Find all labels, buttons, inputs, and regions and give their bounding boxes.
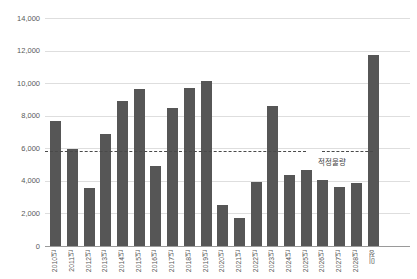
x-tick-label: 2019년 [202,250,210,272]
x-tick-label: 2023년 [268,250,276,272]
y-tick-label: 12,000 [0,46,40,55]
x-tick-label: 2017년 [168,250,176,272]
x-tick-label: 2012년 [85,250,93,272]
x-tick-label: 2025년 [302,250,310,272]
x-tick-label: 2024년 [285,250,293,272]
bar-2015년 [134,89,145,246]
y-tick-label: 6,000 [0,144,40,153]
bar-chart: 적정물량 14,00012,00010,0008,0006,0004,0002,… [0,0,417,279]
bar-2021년 [234,218,245,246]
x-tick-label: 2013년 [101,250,109,272]
x-tick-label: 2027년 [335,250,343,272]
gridline [45,51,410,52]
x-tick-label: 2022년 [252,250,260,272]
x-tick-label: 2028년 [352,250,360,272]
x-tick-label: 2026년 [318,250,326,272]
x-tick-label: 2011년 [68,250,76,272]
x-axis-line [45,246,410,247]
y-tick-label: 10,000 [0,79,40,88]
bar-2010년 [50,121,61,246]
bar-2023년 [267,106,278,246]
gridline [45,83,410,84]
bar-2028년 [351,183,362,246]
gridline [45,18,410,19]
y-tick-label: 14,000 [0,14,40,23]
x-tick-label: 2016년 [151,250,159,272]
bar-2022년 [251,182,262,246]
bar-2017년 [167,108,178,246]
reference-line-label: 적정물량 [318,156,346,167]
bar-2019년 [201,81,212,246]
y-tick-label: 4,000 [0,176,40,185]
x-tick-label: 2014년 [118,250,126,272]
bar-2027년 [334,187,345,246]
reference-dashed-line [45,151,306,152]
bar-2011년 [67,149,78,246]
y-tick-label: 0 [0,242,40,251]
bar-2020년 [217,205,228,246]
x-tick-label: 2020년 [218,250,226,272]
bar-2026년 [317,180,328,246]
bar-2025년 [301,170,312,246]
reference-dashed-line [322,151,373,152]
x-tick-label: 2018년 [185,250,193,272]
bar-2024년 [284,175,295,246]
x-tick-label: 2015년 [135,250,143,272]
x-tick-label: 미정 [369,250,377,264]
bar-2014년 [117,101,128,246]
bar-2016년 [150,166,161,246]
x-tick-label: 2010년 [51,250,59,272]
bar-2012년 [84,188,95,246]
bar-2018년 [184,88,195,246]
y-tick-label: 2,000 [0,209,40,218]
gridline [45,116,410,117]
x-tick-label: 2021년 [235,250,243,272]
y-tick-label: 8,000 [0,111,40,120]
